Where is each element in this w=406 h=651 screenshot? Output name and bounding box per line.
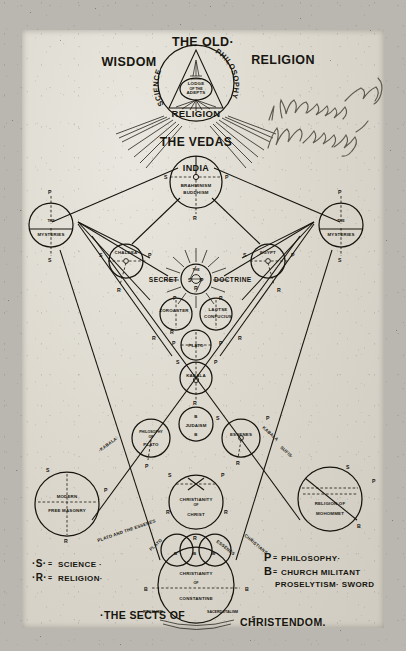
title-the-vedas: THE VEDAS [160, 135, 232, 149]
kabala-mark-s: S [176, 359, 180, 365]
christianity-of-christ-mark-r-right: R [224, 509, 228, 515]
plato-mark-p-right: P [219, 340, 223, 346]
mysteries-right-line2: MYSTERIES [327, 232, 354, 237]
christianity-of-constantine-line3: CONSTANTINE [179, 596, 213, 601]
philosophy-of-plato-line2: OF [149, 435, 155, 439]
label-sufis: SUFIS· [279, 445, 294, 459]
legend-right-key-1: B [264, 565, 272, 577]
node-mysteries-right[interactable]: THE MYSTERIES P S [319, 189, 363, 263]
crest-emblem: LODGE OF THE ADEPTS SCIENCE PHILOSOPHY R… [151, 45, 241, 121]
mysteries-left-line2: MYSTERIES [37, 232, 64, 237]
india-sub2: BUDDHISM [183, 190, 208, 195]
christianity-of-christ-circle [169, 475, 223, 529]
modern-free-masonry-line2: FREE MASONRY [48, 508, 86, 513]
egypt-mark-r: R [277, 287, 281, 293]
legend-right-value-1: CHURCH MILITANT [281, 568, 361, 577]
legend-left-key-0: ·S· [32, 558, 47, 569]
node-secret-doctrine[interactable]: THE SECRET DOCTRINE S P R [149, 248, 252, 308]
sects-mark-b-mid: B [193, 551, 196, 556]
title-religion: RELIGION [251, 53, 315, 67]
christianity-of-constantine-line1: CHRISTIANITY [179, 571, 212, 576]
philosophy-of-plato-line3: PLATO [143, 442, 159, 447]
label-sacerdotalism: SACERDOTALISM [207, 610, 238, 614]
laotse-mark-p: P [219, 295, 223, 301]
modern-free-masonry-mark-s: S [46, 467, 50, 473]
chaldea-mark-p: P [148, 252, 152, 258]
secret-doctrine-mark-s: S [188, 277, 192, 283]
religion-of-mohommet-line2: MOHOMMET [316, 511, 344, 516]
zoroaster-label: ZOROASTER [159, 308, 189, 313]
legend-right-value-2: PROSELYTISM· SWORD [275, 580, 374, 589]
india-mark-r: R [193, 215, 197, 221]
kabala-mark-p: P [214, 359, 218, 365]
node-plato[interactable]: PLATO R P P [170, 329, 223, 360]
node-judaism[interactable]: B JUDAISM B [179, 407, 213, 441]
secret-doctrine-post: DOCTRINE [214, 276, 252, 283]
essenes-mark-p: P [266, 415, 270, 421]
legend-right-sep-0: = [273, 554, 278, 561]
crest-inner-line3: ADEPTS [186, 90, 205, 95]
religion-of-mohommet-mark-s: S [346, 464, 350, 470]
mysteries-left-line1: THE [47, 219, 55, 223]
christianity-of-christ-mark-s: S [168, 472, 172, 478]
secret-doctrine-mark-r: R [194, 285, 198, 291]
christianity-of-christ-mark-p: P [221, 472, 225, 478]
node-mysteries-left[interactable]: THE MYSTERIES P S [29, 189, 73, 263]
philosophy-of-plato-mark-p: P [145, 463, 149, 469]
node-modern-free-masonry[interactable]: MODERN FREE MASONRY S P R [35, 467, 108, 544]
religion-of-mohommet-mark-p: P [372, 478, 376, 484]
egypt-label: EGYPT [260, 250, 276, 255]
legend-left-key-1: ·R· [32, 572, 47, 583]
legend-left-value-0: SCIENCE · [58, 560, 102, 569]
laotse-line2: CONFUCIUS [204, 314, 232, 319]
christianity-of-christ-line3: CHRIST [187, 512, 205, 517]
egypt-mark-s: S [243, 252, 247, 258]
philosophy-of-plato-line1: PHILOSOPHY [139, 430, 163, 434]
judaism-label: JUDAISM [185, 423, 206, 428]
constantine-base-arc2 [163, 624, 231, 630]
judaism-mark-b-top: B [194, 414, 197, 419]
chaldea-mark-r: R [117, 287, 121, 293]
legend-left: ·S· = SCIENCE · ·R· = RELIGION· [32, 558, 103, 583]
node-religion-of-mohommet[interactable]: RELIGION OF MOHOMMET S P B [298, 464, 376, 531]
diagram-page: THE OLD· WISDOM RELIGION LODGE OF THE AD… [0, 0, 406, 651]
religion-of-mohommet-line1: RELIGION OF [315, 501, 346, 506]
christianity-of-christ-line1: CHRISTIANITY [179, 497, 212, 502]
laotse-line1: LAOTSE [208, 307, 227, 312]
zoroaster-mark-r: R [152, 335, 156, 341]
india-sub1: BRAHMINISM [181, 183, 212, 188]
node-india[interactable]: INDIA BRAHMINISM BUDDHISM S P R [164, 156, 229, 221]
node-chaldea[interactable]: CHALDEA S P R [99, 244, 152, 293]
mysteries-right-mark-p: P [338, 189, 342, 195]
legend-right: P = PHILOSOPHY· B = CHURCH MILITANT PROS… [264, 551, 374, 589]
secret-doctrine-top: THE [192, 268, 200, 272]
modern-free-masonry-mark-r: R [64, 538, 68, 544]
mysteries-left-circle [29, 203, 73, 247]
modern-free-masonry-mark-p: P [104, 487, 108, 493]
legend-left-sep-1: = [48, 574, 53, 581]
religion-of-mohommet-circle [298, 467, 362, 531]
legend-left-sep-0: = [48, 560, 53, 567]
modern-free-masonry-line1: MODERN [57, 494, 78, 499]
christianity-of-christ-line2: OF [194, 503, 200, 507]
essenes-circle [222, 419, 260, 457]
essenes-mark-s: S [216, 415, 220, 421]
legend-right-value-0: PHILOSOPHY· [281, 554, 341, 563]
title-the-old: THE OLD· [172, 35, 234, 49]
legend-right-sep-1: = [273, 568, 278, 575]
title-sects-of: ·THE SECTS OF [100, 609, 185, 621]
laotse-mark-r: R [238, 335, 242, 341]
crest-label-science: SCIENCE [151, 68, 165, 108]
christianity-of-constantine-mark-b-left: B [144, 586, 148, 592]
title-wisdom: WISDOM [101, 55, 156, 69]
crest-label-philosophy: PHILOSOPHY [214, 47, 241, 100]
node-christianity-of-christ[interactable]: CHRISTIANITY OF CHRIST S P R R [166, 472, 228, 529]
christianity-of-constantine-line2: OF [194, 581, 200, 585]
node-philosophy-of-plato[interactable]: PHILOSOPHY OF PLATO P [132, 419, 170, 469]
node-essenes[interactable]: ESSENES S P R [216, 415, 270, 466]
india-mark-p: P [225, 174, 229, 180]
christianity-of-christ-mark-r-left: R [166, 509, 170, 515]
chaldea-mark-s: S [99, 252, 103, 258]
title-christendom: CHRISTENDOM. [240, 616, 326, 628]
diagram-canvas: THE OLD· WISDOM RELIGION LODGE OF THE AD… [0, 0, 406, 651]
